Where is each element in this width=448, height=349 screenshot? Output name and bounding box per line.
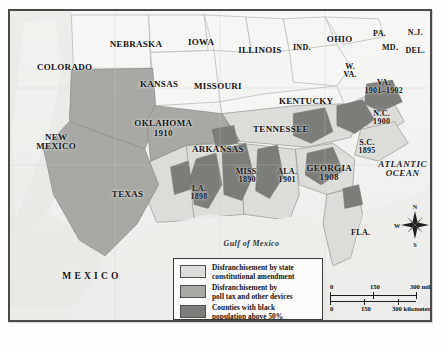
state-label-texas: TEXAS: [112, 190, 144, 199]
legend-poll-tax: Disfranchisement by poll tax and other d…: [180, 284, 317, 301]
legend-black-majority-text: Counties with black population above 50%: [212, 304, 283, 321]
state-label-oklahoma: OKLAHOMA 1910: [134, 119, 192, 137]
legend-amendment-swatch: [180, 265, 206, 278]
state-label-louisiana: LA. 1898: [190, 185, 207, 201]
state-label-missouri: MISSOURI: [194, 82, 242, 91]
state-label-pennsylvania: PA.: [373, 30, 386, 38]
scale-miles-numbers: 0 150 300 miles: [330, 283, 432, 292]
historical-map-figure: COLORADONEBRASKAIOWAKANSASMISSOURIILLINO…: [0, 0, 448, 349]
state-label-iowa: IOWA: [188, 39, 214, 48]
state-label-colorado: COLORADO: [37, 64, 92, 73]
scale-km-tick-1: 150: [361, 305, 371, 312]
state-label-ohio: OHIO: [327, 36, 353, 45]
scale-km-tick-0: 0: [330, 305, 333, 312]
state-label-new-mexico: NEW MEXICO: [36, 133, 76, 151]
state-label-illinois: ILLINOIS: [238, 47, 281, 56]
scale-miles-end: 300 miles: [410, 283, 432, 290]
scale-kilometers-numbers: 0 150 300 kilometers: [330, 305, 432, 314]
legend-amendment: Disfranchisement by state constitutional…: [180, 264, 317, 281]
atlantic-ocean-label: ATLANTIC OCEAN: [378, 159, 427, 177]
scale-km-end: 300 kilometers: [392, 305, 432, 312]
state-label-south-carolina: S.C. 1895: [358, 139, 375, 155]
map-frame: COLORADONEBRASKAIOWAKANSASMISSOURIILLINO…: [8, 9, 432, 322]
map-legend: Disfranchisement by state constitutional…: [173, 258, 323, 320]
state-label-north-carolina: N.C. 1900: [373, 109, 390, 125]
state-label-kansas: KANSAS: [140, 81, 178, 90]
state-label-maryland: MD.: [382, 44, 398, 52]
state-label-tennessee: TENNESSEE: [253, 125, 309, 134]
state-label-georgia: GEORGIA 1908: [306, 164, 352, 182]
legend-black-majority: Counties with black population above 50%: [180, 304, 317, 321]
state-label-alabama: ALA. 1901: [277, 168, 297, 184]
state-label-delaware: DEL.: [405, 47, 425, 55]
compass-south-label: S: [413, 241, 416, 248]
scale-miles-tick-1: 150: [370, 283, 380, 290]
state-label-kentucky: KENTUCKY: [279, 98, 333, 107]
scale-miles-bar: [330, 292, 432, 299]
gulf-of-mexico-label: Gulf of Mexico: [224, 240, 280, 248]
state-label-mississippi: MISS. 1890: [236, 168, 259, 184]
state-label-west-virginia: W. VA.: [343, 63, 356, 79]
legend-poll-tax-text: Disfranchisement by poll tax and other d…: [212, 284, 293, 301]
legend-amendment-text: Disfranchisement by state constitutional…: [212, 264, 294, 281]
compass-rose: N E S W: [393, 199, 432, 249]
state-label-virginia: VA. 1901–1902: [364, 79, 403, 95]
compass-north-label: N: [413, 203, 417, 210]
scale-miles-tick-0: 0: [330, 283, 333, 290]
legend-poll-tax-swatch: [180, 285, 206, 298]
map-scale-bars: 0 150 300 miles 0 150 300 kilometers: [330, 283, 432, 314]
state-label-nebraska: NEBRASKA: [110, 40, 162, 49]
state-label-indiana: IND.: [293, 44, 311, 52]
compass-east-label: E: [431, 222, 432, 229]
state-label-florida: FLA.: [351, 229, 370, 237]
mexico-label: MEXICO: [62, 272, 121, 282]
state-label-new-jersey: N.J.: [408, 29, 423, 37]
compass-west-label: W: [394, 222, 400, 229]
legend-black-majority-swatch: [180, 305, 206, 318]
state-label-arkansas: ARKANSAS: [192, 145, 244, 154]
